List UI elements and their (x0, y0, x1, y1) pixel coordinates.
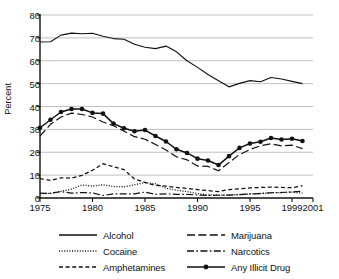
x-tick-label: 2001 (302, 202, 323, 213)
legend-item-alcohol[interactable]: Alcohol (58, 227, 186, 243)
series-marker-any-illicit-drug (195, 156, 200, 161)
series-marker-any-illicit-drug (164, 139, 169, 144)
legend-item-marijuana[interactable]: Marijuana (186, 227, 326, 243)
y-tick-label: 80 (14, 10, 40, 21)
series-marker-any-illicit-drug (80, 107, 85, 112)
legend-label-alcohol: Alcohol (103, 230, 133, 241)
x-tick-label: 1975 (29, 202, 50, 213)
y-tick-label: 30 (14, 124, 40, 135)
series-marker-any-illicit-drug (101, 111, 106, 116)
y-tick-label: 50 (14, 78, 40, 89)
legend-label-amphetamines: Amphetamines (103, 262, 165, 273)
chart-figure: Percent 01020304050607080 19751980198519… (0, 0, 339, 279)
series-marker-any-illicit-drug (290, 136, 295, 141)
series-marker-any-illicit-drug (237, 146, 242, 151)
x-tick-label: 1985 (134, 202, 155, 213)
series-marker-any-illicit-drug (153, 134, 158, 139)
legend-label-any-illicit-drug: Any Illicit Drug (231, 262, 290, 273)
series-marker-any-illicit-drug (300, 139, 305, 144)
series-marker-any-illicit-drug (48, 117, 53, 122)
x-tick-label: 1999 (281, 202, 302, 213)
legend-swatch-alcohol (58, 230, 98, 240)
series-line-narcotics (40, 191, 303, 195)
series-marker-any-illicit-drug (111, 121, 116, 126)
x-tick-label: 1995 (239, 202, 260, 213)
legend-swatch-amphetamines (58, 262, 98, 272)
y-tick-label: 40 (14, 101, 40, 112)
series-marker-any-illicit-drug (248, 141, 253, 146)
legend-label-cocaine: Cocaine (103, 246, 137, 257)
legend-label-narcotics: Narcotics (231, 246, 270, 257)
series-marker-any-illicit-drug (59, 110, 64, 115)
series-marker-any-illicit-drug (122, 126, 127, 131)
x-tick-label: 1980 (82, 202, 103, 213)
series-marker-any-illicit-drug (185, 151, 190, 156)
legend-swatch-cocaine (58, 246, 98, 256)
series-marker-any-illicit-drug (269, 136, 274, 141)
x-tick-label: 1990 (187, 202, 208, 213)
series-marker-any-illicit-drug (90, 111, 95, 116)
y-tick-label: 70 (14, 32, 40, 43)
series-marker-any-illicit-drug (258, 139, 263, 144)
series-line-alcohol (40, 33, 303, 87)
legend-label-marijuana: Marijuana (231, 230, 272, 241)
y-tick-label: 10 (14, 170, 40, 181)
legend-item-narcotics[interactable]: Narcotics (186, 243, 326, 259)
series-marker-any-illicit-drug (279, 137, 284, 142)
y-tick-label: 20 (14, 147, 40, 158)
series-marker-any-illicit-drug (227, 154, 232, 159)
series-marker-any-illicit-drug (143, 128, 148, 133)
legend-swatch-narcotics (186, 246, 226, 256)
legend-item-amphetamines[interactable]: Amphetamines (58, 259, 186, 275)
series-line-marijuana (40, 113, 303, 171)
series-marker-any-illicit-drug (216, 163, 221, 168)
legend-swatch-marijuana (186, 230, 226, 240)
series-marker-any-illicit-drug (174, 147, 179, 152)
series-line-any-illicit-drug (40, 109, 303, 165)
chart-legend: AlcoholMarijuanaCocaineNarcoticsAmphetam… (58, 227, 330, 277)
y-axis-ticks: 01020304050607080 (0, 0, 40, 215)
series-marker-any-illicit-drug (206, 158, 211, 163)
series-marker-any-illicit-drug (69, 107, 74, 112)
legend-item-cocaine[interactable]: Cocaine (58, 243, 186, 259)
series-line-amphetamines (40, 164, 303, 192)
legend-swatch-any-illicit-drug (186, 262, 226, 272)
series-marker-any-illicit-drug (132, 129, 137, 134)
y-tick-label: 60 (14, 55, 40, 66)
legend-item-any-illicit-drug[interactable]: Any Illicit Drug (186, 259, 326, 275)
legend-marker-any-illicit-drug (204, 265, 209, 270)
